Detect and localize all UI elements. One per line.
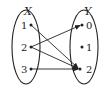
x-element-1: 1 [21,20,27,31]
x-element-2: 2 [21,42,27,53]
y-point-1 [81,46,84,49]
y-element-1: 1 [86,42,92,53]
y-point-2 [79,68,82,71]
set-x-label: X [23,5,33,18]
x-element-3: 3 [21,64,27,75]
y-element-0: 0 [86,20,92,31]
set-y: Y 0 1 2 [70,5,98,84]
y-element-2: 2 [86,64,92,75]
mapping-diagram: X 1 2 3 Y 0 1 2 [0,0,109,90]
y-point-0 [81,24,84,27]
set-y-ellipse [70,10,98,84]
